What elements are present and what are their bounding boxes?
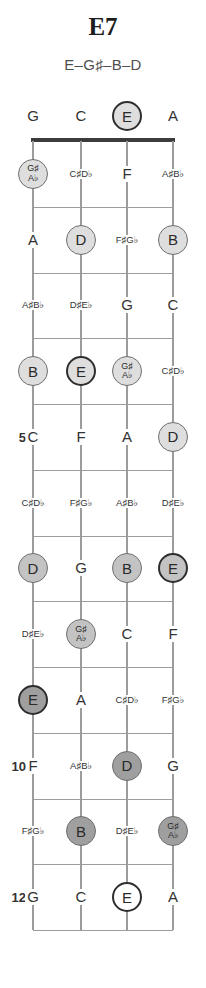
- note-name-line: B: [28, 364, 38, 379]
- note-name-line: F: [122, 165, 131, 182]
- note-name-line: D♯: [22, 628, 34, 639]
- note-name-line: G♭: [80, 497, 92, 508]
- note-name-line: A♯: [22, 299, 33, 310]
- note-name-line: A: [76, 691, 86, 708]
- open-note-text: A: [166, 108, 180, 124]
- note-text: A♯B♭: [21, 300, 45, 310]
- note-dot: G♯A♭: [158, 816, 188, 846]
- fret-line: [33, 601, 173, 602]
- note-dot: B: [112, 553, 142, 583]
- note-text: G: [73, 560, 89, 576]
- note-text: A: [120, 429, 134, 445]
- note-name-line: B: [76, 824, 86, 839]
- note-name-line: E♭: [81, 299, 92, 310]
- note-name-line: D: [168, 429, 179, 444]
- note-name-line: F: [168, 625, 177, 642]
- note-text: A: [26, 232, 40, 248]
- note-name-line: C♯: [116, 694, 128, 705]
- note-name-line: B♭: [33, 299, 44, 310]
- note-name-line: C: [28, 428, 39, 445]
- note-name-line: C: [168, 296, 179, 313]
- string-line: [126, 141, 127, 930]
- note-text: F: [166, 626, 179, 642]
- fret-number: 5: [0, 429, 26, 444]
- fretboard-diagram: GCEAG♯A♭C♯D♭FA♯B♭ADF♯G♭BA♯B♭D♯E♭GCBEG♯A♭…: [0, 0, 206, 988]
- note-name-line: A: [28, 231, 38, 248]
- note-name-line: E: [122, 890, 132, 905]
- note-dot-root: E: [18, 685, 48, 715]
- chord-tone-fretboard-page: E7 E–G♯–B–D GCEAG♯A♭C♯D♭FA♯B♭ADF♯G♭BA♯B♭…: [0, 0, 206, 988]
- note-text: D♯E♭: [115, 826, 139, 836]
- note-dot: D: [66, 225, 96, 255]
- string-line: [32, 141, 33, 930]
- note-name-line: G: [121, 296, 133, 313]
- note-text: C♯D♭: [69, 169, 94, 179]
- note-text: D♯E♭: [21, 629, 45, 639]
- note-name-line: F♯: [162, 694, 173, 705]
- note-text: G: [165, 758, 181, 774]
- fret-line: [33, 667, 173, 668]
- fret-line: [33, 733, 173, 734]
- note-dot: G♯A♭: [66, 619, 96, 649]
- note-name-line: B: [122, 561, 132, 576]
- note-dot-root: E: [112, 882, 142, 912]
- fret-line: [33, 404, 173, 405]
- note-text: C♯D♭: [21, 498, 46, 508]
- note-dot: G♯A♭: [18, 159, 48, 189]
- note-text: F♯G♭: [115, 235, 139, 245]
- note-name-line: F♯: [22, 825, 33, 836]
- note-text: A♯B♭: [115, 498, 139, 508]
- fret-line: [33, 536, 173, 537]
- note-name-line: A: [168, 107, 178, 124]
- fret-line: [33, 864, 173, 865]
- note-name-line: E: [168, 561, 178, 576]
- fret-number: 12: [0, 890, 26, 905]
- note-name-line: D♭: [81, 168, 92, 179]
- note-name-line: G: [75, 559, 87, 576]
- note-dot: D: [112, 751, 142, 781]
- note-text: F: [74, 429, 87, 445]
- note-text: C: [166, 297, 181, 313]
- note-text: D♯E♭: [161, 498, 185, 508]
- note-name-line: D♭: [173, 365, 184, 376]
- note-name-line: A♭: [168, 831, 178, 841]
- note-name-line: G: [27, 107, 39, 124]
- note-name-line: A♯: [116, 497, 127, 508]
- note-name-line: E: [28, 692, 38, 707]
- note-name-line: G♭: [172, 694, 184, 705]
- note-text: F♯G♭: [161, 695, 185, 705]
- note-text: F♯G♭: [21, 826, 45, 836]
- note-text: C: [120, 626, 135, 642]
- note-name-line: E♭: [33, 628, 44, 639]
- fret-line: [33, 470, 173, 471]
- note-name-line: C: [122, 625, 133, 642]
- note-name-line: D♭: [127, 694, 138, 705]
- note-text: C♯D♭: [161, 366, 186, 376]
- note-text: A♯B♭: [69, 761, 93, 771]
- note-name-line: F♯: [70, 497, 81, 508]
- note-name-line: B♭: [127, 497, 138, 508]
- note-text: C: [26, 429, 41, 445]
- fret-line: [33, 207, 173, 208]
- note-name-line: C♯: [70, 168, 82, 179]
- note-name-line: D: [76, 232, 87, 247]
- note-name-line: E♭: [173, 497, 184, 508]
- note-name-line: F♯: [116, 234, 127, 245]
- note-text: G: [25, 889, 41, 905]
- note-name-line: B: [168, 232, 178, 247]
- note-text: F: [26, 758, 39, 774]
- note-text: C: [74, 889, 89, 905]
- open-note-text: C: [74, 108, 89, 124]
- note-name-line: A♯: [70, 760, 81, 771]
- note-dot-root: E: [66, 356, 96, 386]
- note-text: A: [166, 889, 180, 905]
- string-line: [172, 141, 173, 930]
- note-name-line: E: [76, 364, 86, 379]
- note-name-line: A: [122, 428, 132, 445]
- note-dot: D: [18, 553, 48, 583]
- note-text: F♯G♭: [69, 498, 93, 508]
- note-name-line: G: [167, 757, 179, 774]
- note-name-line: E♭: [127, 825, 138, 836]
- note-name-line: C♯: [162, 365, 174, 376]
- nut: [31, 138, 175, 142]
